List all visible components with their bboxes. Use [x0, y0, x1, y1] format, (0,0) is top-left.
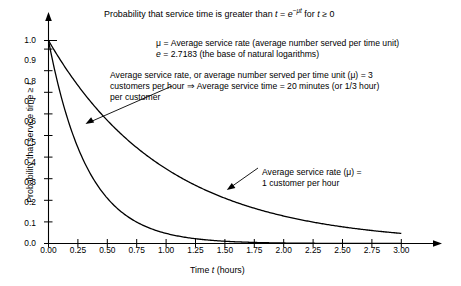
title-equals: = — [278, 9, 288, 19]
note-e-rest: = 2.7183 (the base of natural logarithms… — [161, 49, 319, 59]
y-tick-label: 0.3 — [10, 177, 36, 187]
x-tick-label: 2.25 — [298, 245, 328, 255]
y-tick-label: 0.9 — [10, 55, 36, 65]
x-tick-label: 3.00 — [386, 245, 416, 255]
x-axis-title: Time t (hours) — [190, 265, 245, 276]
annotation-mu-3: Average service rate, or average number … — [110, 70, 379, 104]
y-axis-arrowhead — [45, 12, 52, 21]
x-tick-label: 1.25 — [181, 245, 211, 255]
x-tick-label: 0.50 — [92, 245, 122, 255]
title-lead: Probability that service time is greater… — [104, 9, 275, 19]
x-tick-label: 0.25 — [63, 245, 93, 255]
y-tick-label: 0.8 — [10, 76, 36, 86]
note-mu-definition: μ = Average service rate (average number… — [156, 38, 399, 49]
annotation-mu-3-line-2: customers per hour ⇒ Average service tim… — [110, 81, 379, 91]
y-tick-label: 0.0 — [10, 238, 36, 248]
x-axis-title-pre: Time — [190, 265, 212, 275]
x-tick-label: 1.00 — [151, 245, 181, 255]
x-tick-label: 0.00 — [34, 245, 64, 255]
leader-arrowhead-mu-3 — [86, 117, 95, 124]
title-for: for — [302, 9, 317, 19]
y-tick-label: 0.1 — [10, 218, 36, 228]
x-axis-title-post: (hours) — [214, 265, 244, 275]
y-tick-label: 0.4 — [10, 157, 36, 167]
chart-title: Probability that service time is greater… — [104, 9, 335, 20]
x-tick-label: 2.50 — [328, 245, 358, 255]
annotation-mu-1-line-1: Average service rate (μ) = — [262, 167, 362, 177]
title-condition: ≥ 0 — [320, 9, 335, 19]
y-tick-label: 0.6 — [10, 116, 36, 126]
y-tick-label: 0.2 — [10, 197, 36, 207]
annotation-mu-1: Average service rate (μ) =1 customer per… — [262, 167, 362, 189]
y-tick-label: 0.7 — [10, 96, 36, 106]
annotation-mu-1-line-2: 1 customer per hour — [262, 178, 339, 188]
exponential-service-time-chart: Probability that service time is greater… — [0, 0, 461, 286]
leader-arrowhead-mu-1 — [227, 183, 236, 190]
y-tick-label: 1.0 — [10, 35, 36, 45]
title-exponent: −μt — [293, 7, 302, 14]
annotation-mu-3-line-1: Average service rate, or average number … — [110, 70, 373, 80]
x-tick-label: 1.75 — [239, 245, 269, 255]
x-axis-arrowhead — [433, 240, 442, 247]
x-tick-label: 2.75 — [357, 245, 387, 255]
annotation-mu-3-line-3: per customer — [110, 92, 160, 102]
x-tick-label: 1.50 — [210, 245, 240, 255]
leader-line-mu-1 — [231, 168, 258, 187]
x-tick-label: 2.00 — [269, 245, 299, 255]
note-e-definition: e = 2.7183 (the base of natural logarith… — [156, 49, 319, 60]
y-tick-label: 0.5 — [10, 137, 36, 147]
x-tick-label: 0.75 — [122, 245, 152, 255]
